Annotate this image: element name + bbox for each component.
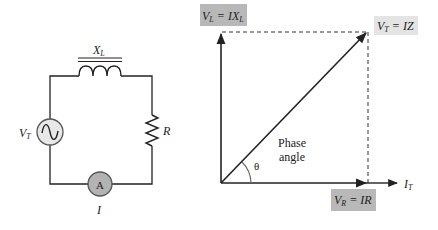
svg-text:VL = IXL: VL = IXL (202, 9, 244, 24)
current-label: I (96, 203, 102, 217)
diagram-canvas: XL VT R A I θ Phase angle (0, 0, 438, 230)
vt-label: VT = IZ (374, 16, 418, 35)
it-label: IT (403, 177, 413, 192)
inductor-label: XL (92, 43, 105, 58)
source-label: VT (19, 126, 31, 141)
theta-label: θ (254, 160, 259, 172)
vr-label: VR = IR (331, 189, 376, 211)
phase-label-line1: Phase (278, 136, 306, 150)
ammeter-icon: A (88, 172, 112, 196)
resistor-icon (146, 115, 158, 146)
rl-circuit: XL VT R A I (19, 43, 171, 217)
circuit-wire (50, 76, 152, 184)
ac-source-icon (37, 119, 63, 145)
svg-text:A: A (96, 179, 104, 191)
resistor-label: R (162, 124, 171, 138)
vl-label: VL = IXL (200, 4, 247, 26)
phasor-diagram: θ Phase angle VL = IXL VT = IZ VR = IR I… (200, 4, 418, 211)
svg-text:VT = IZ: VT = IZ (377, 19, 414, 34)
inductor-coil-icon (79, 66, 121, 76)
phase-angle-arc (242, 162, 251, 183)
svg-text:VR = IR: VR = IR (334, 193, 372, 208)
phase-label-line2: angle (279, 150, 305, 164)
